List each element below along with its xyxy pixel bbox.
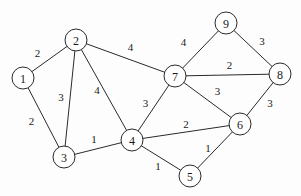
node-label: 4	[129, 134, 135, 148]
node-9: 9	[215, 12, 237, 34]
edge-weight-3-4: 1	[91, 133, 97, 145]
node-1: 1	[12, 67, 34, 89]
node-7: 7	[164, 65, 186, 87]
node-8: 8	[269, 63, 291, 85]
node-3: 3	[53, 146, 75, 168]
edge-weight-2-3: 3	[58, 91, 64, 103]
nodes-layer: 123456789	[12, 12, 291, 187]
node-label: 3	[61, 151, 67, 165]
edge-2-4	[76, 40, 132, 140]
edge-weight-7-8: 2	[227, 59, 233, 71]
edge-weight-1-3: 2	[29, 115, 35, 127]
edge-2-7	[76, 40, 175, 76]
edge-weight-9-8: 3	[259, 35, 265, 47]
edge-7-6	[175, 76, 240, 124]
edge-weight-4-5: 1	[155, 160, 161, 172]
edge-2-3	[64, 40, 76, 157]
node-4: 4	[121, 129, 143, 151]
node-label: 9	[223, 17, 229, 31]
node-6: 6	[229, 113, 251, 135]
node-label: 6	[237, 118, 243, 132]
edge-weight-8-6: 3	[267, 97, 273, 109]
node-label: 2	[73, 34, 79, 48]
node-5: 5	[179, 165, 201, 187]
edge-weight-5-6: 1	[205, 142, 211, 154]
edge-weight-7-6: 3	[215, 85, 221, 97]
node-label: 7	[172, 70, 178, 84]
edge-weight-4-6: 2	[183, 118, 189, 130]
graph-diagram: 223441321134233 123456789	[0, 0, 301, 196]
edge-weight-2-4: 4	[94, 84, 100, 96]
node-2: 2	[65, 29, 87, 51]
edge-weight-1-2: 2	[35, 47, 41, 59]
edge-4-7	[132, 76, 175, 140]
edge-7-8	[175, 74, 280, 76]
node-label: 8	[277, 68, 283, 82]
edge-weight-7-9: 4	[181, 36, 187, 48]
edge-weight-4-7: 3	[143, 97, 149, 109]
node-label: 5	[187, 170, 193, 184]
edge-weight-2-7: 4	[128, 41, 134, 53]
node-label: 1	[20, 72, 26, 86]
